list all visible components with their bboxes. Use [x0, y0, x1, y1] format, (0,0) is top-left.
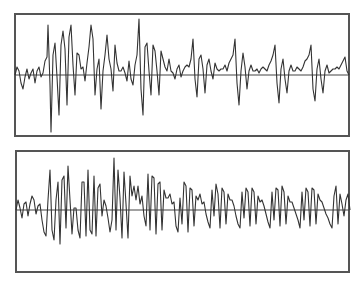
waveform-canvas: [0, 0, 361, 285]
bottom-waveform-trace: [16, 158, 350, 244]
